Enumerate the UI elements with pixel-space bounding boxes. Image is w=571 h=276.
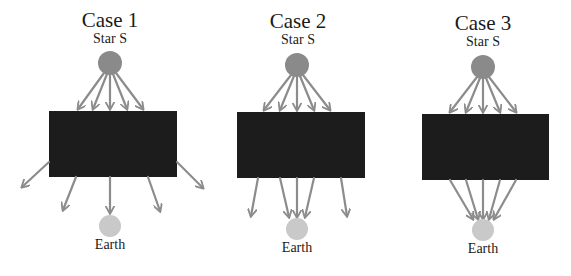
- earth-icon: [99, 215, 121, 237]
- lensing-block: [49, 111, 177, 177]
- lensing-block: [237, 112, 365, 178]
- case-2-star-label: Star S: [281, 32, 315, 48]
- outgoing-light-ray-arrow-icon: [251, 178, 258, 216]
- outgoing-light-ray-arrow-icon: [341, 178, 347, 216]
- gravitational-lensing-diagram: Case 1 Star S Earth Case 2 Star S Earth …: [0, 0, 571, 276]
- outgoing-light-ray-arrow-icon: [305, 178, 314, 217]
- case-1-star-label: Star S: [93, 31, 127, 47]
- lensing-block: [422, 114, 549, 180]
- outgoing-light-ray-arrow-icon: [22, 162, 49, 187]
- case-1: [22, 51, 203, 237]
- case-1-earth-label: Earth: [95, 237, 125, 253]
- outgoing-light-ray-arrow-icon: [177, 162, 203, 188]
- outgoing-light-ray-arrow-icon: [466, 180, 478, 219]
- case-2: [237, 53, 365, 240]
- outgoing-light-ray-arrow-icon: [148, 177, 160, 211]
- outgoing-light-ray-arrow-icon: [450, 180, 473, 219]
- case-2-title: Case 2: [270, 9, 327, 34]
- star-s-icon: [98, 51, 122, 75]
- case-1-title: Case 1: [82, 8, 139, 33]
- case-3-earth-label: Earth: [468, 241, 498, 257]
- case-2-earth-label: Earth: [282, 240, 312, 256]
- star-s-icon: [285, 53, 309, 77]
- earth-icon: [286, 218, 308, 240]
- case-3-star-label: Star S: [466, 34, 500, 50]
- star-s-icon: [471, 55, 495, 79]
- case-3: [422, 55, 549, 241]
- outgoing-light-ray-arrow-icon: [280, 178, 289, 217]
- earth-icon: [472, 219, 494, 241]
- case-3-title: Case 3: [455, 11, 512, 36]
- outgoing-light-ray-arrow-icon: [63, 177, 76, 210]
